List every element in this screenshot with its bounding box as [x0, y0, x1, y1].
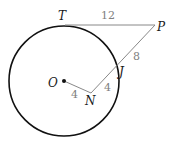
label-o: O — [48, 76, 58, 90]
length-on: 4 — [71, 88, 78, 101]
length-tp: 12 — [101, 9, 115, 22]
segment-pn — [91, 25, 155, 93]
center-dot-o — [62, 79, 66, 83]
label-n: N — [84, 94, 96, 108]
label-p: P — [156, 20, 166, 34]
geometry-diagram: T P O N J 12 8 4 4 — [0, 0, 175, 155]
label-t: T — [58, 9, 67, 23]
length-pj: 8 — [133, 50, 140, 63]
length-jn: 4 — [104, 81, 111, 94]
